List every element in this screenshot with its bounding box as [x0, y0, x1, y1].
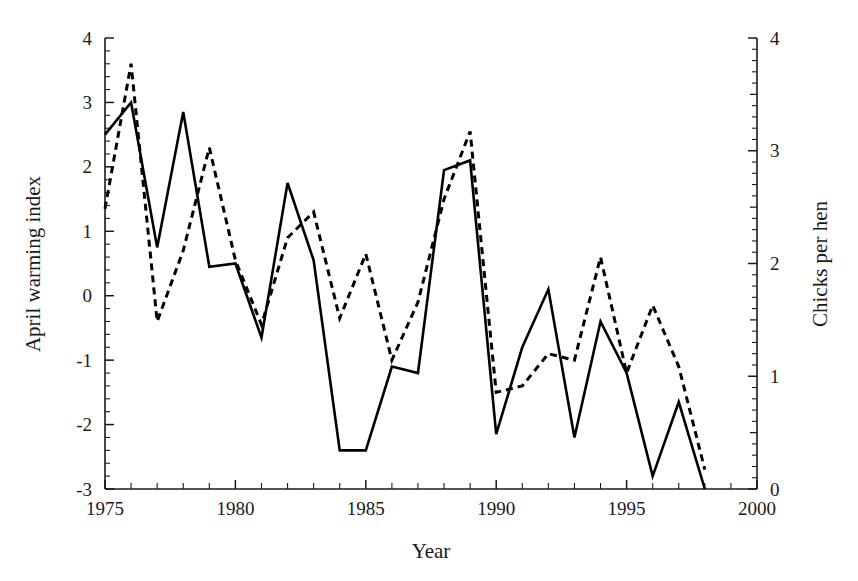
y-axis-right-tick-labels: 01234: [770, 28, 780, 500]
y-axis-left-tick-label: 2: [83, 156, 93, 177]
y-axis-right-ticks: [748, 38, 757, 489]
y-axis-left-tick-label: -1: [76, 350, 92, 371]
y-axis-right-tick-label: 4: [770, 28, 780, 49]
chart-plot-area: -3-2-101234 01234 1975198019851990199520…: [0, 0, 858, 581]
series-chicks-per-hen-line: [105, 64, 705, 470]
x-axis-tick-label: 1990: [477, 498, 515, 519]
x-axis-tick-label: 2000: [738, 498, 776, 519]
y-axis-left-tick-label: -3: [76, 479, 92, 500]
chart-figure: -3-2-101234 01234 1975198019851990199520…: [0, 0, 858, 581]
y-axis-left-tick-label: 3: [83, 92, 93, 113]
y-axis-left-title: April warming index: [21, 175, 45, 352]
y-axis-left-tick-label: 1: [83, 221, 93, 242]
y-axis-left-tick-label: 4: [83, 28, 93, 49]
series-april-warming-index-line: [105, 102, 705, 489]
y-axis-left-ticks: [105, 38, 114, 489]
y-axis-right-tick-label: 2: [770, 253, 780, 274]
x-axis-tick-label: 1975: [86, 498, 124, 519]
y-axis-left-tick-label: -2: [76, 414, 92, 435]
y-axis-right-tick-label: 3: [770, 140, 780, 161]
x-axis-tick-label: 1980: [216, 498, 254, 519]
x-axis-title: Year: [412, 539, 451, 563]
x-axis-ticks: [105, 480, 757, 489]
x-axis-tick-labels: 197519801985199019952000: [86, 498, 776, 519]
y-axis-right-tick-label: 1: [770, 366, 780, 387]
y-axis-left-tick-label: 0: [83, 285, 93, 306]
x-axis-tick-label: 1995: [608, 498, 646, 519]
y-axis-right-tick-label: 0: [770, 479, 780, 500]
y-axis-right-title: Chicks per hen: [808, 201, 832, 327]
y-axis-left-tick-labels: -3-2-101234: [76, 28, 92, 500]
x-axis-tick-label: 1985: [347, 498, 385, 519]
